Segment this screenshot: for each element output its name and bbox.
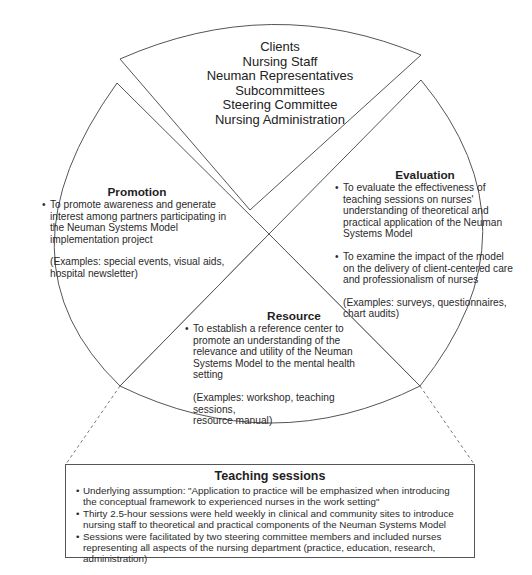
teaching-sessions-title: Teaching sessions [66, 469, 474, 483]
resource-title: Resource [185, 309, 363, 323]
teaching-sessions-bullet: Underlying assumption: "Application to p… [76, 485, 464, 508]
promotion-title: Promotion [42, 185, 232, 199]
evaluation-bullet: To evaluate the effectiveness of teachin… [335, 182, 515, 240]
stakeholder-item: Neuman Representatives [190, 69, 370, 84]
evaluation-example-line: (Examples: surveys, questionnaires, [335, 297, 515, 309]
stakeholder-item: Subcommittees [190, 84, 370, 99]
teaching-sessions-box: Teaching sessions Underlying assumption:… [65, 464, 475, 558]
promotion-bullet: To promote awareness and generate intere… [42, 199, 232, 245]
teaching-sessions-bullet: Thirty 2.5-hour sessions were held weekl… [76, 508, 464, 531]
evaluation-title: Evaluation [335, 168, 515, 182]
resource-bullet: To establish a reference center to promo… [185, 323, 363, 381]
promotion-section: Promotion To promote awareness and gener… [42, 185, 232, 280]
connector-right [420, 386, 474, 464]
promotion-example-line: (Examples: special events, visual aids, [42, 256, 232, 268]
resource-example-line: (Examples: workshop, teaching sessions, [185, 392, 363, 415]
evaluation-section: Evaluation To evaluate the effectiveness… [335, 168, 515, 320]
stakeholder-item: Nursing Staff [190, 55, 370, 70]
stakeholder-item: Nursing Administration [190, 113, 370, 128]
resource-section: Resource To establish a reference center… [185, 309, 363, 427]
stakeholders-list: Clients Nursing Staff Neuman Representat… [190, 40, 370, 128]
promotion-example-line: hospital newsletter) [42, 268, 232, 280]
teaching-sessions-bullet: Sessions were facilitated by two steerin… [76, 531, 464, 565]
evaluation-bullet: To examine the impact of the model on th… [335, 251, 515, 286]
stakeholder-item: Clients [190, 40, 370, 55]
stakeholder-item: Steering Committee [190, 98, 370, 113]
connector-left [66, 386, 120, 464]
resource-example-line: resource manual) [185, 415, 363, 427]
